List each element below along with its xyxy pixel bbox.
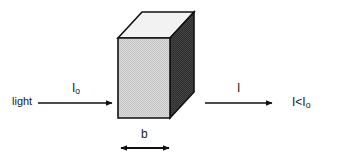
path-length-label: b xyxy=(141,128,148,140)
intensity-relation-expression: I<I xyxy=(292,95,306,109)
incident-intensity-subscript: o xyxy=(75,86,80,96)
transmitted-intensity-label: I xyxy=(237,82,240,94)
light-label: light xyxy=(12,96,32,107)
box-front-face xyxy=(118,38,170,118)
intensity-relation-subscript: o xyxy=(306,100,311,110)
incident-intensity-label: Io xyxy=(72,82,80,96)
intensity-relation-label: I<Io xyxy=(292,96,310,110)
diagram-canvas xyxy=(0,0,339,165)
sample-box-icon xyxy=(118,12,194,118)
beer-lambert-diagram: light Io I I<Io b xyxy=(0,0,339,165)
